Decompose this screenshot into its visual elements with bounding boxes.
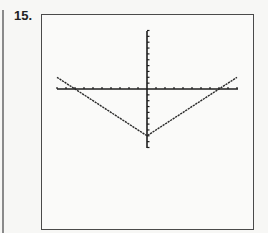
axes (57, 31, 238, 149)
function-graph (0, 0, 268, 233)
